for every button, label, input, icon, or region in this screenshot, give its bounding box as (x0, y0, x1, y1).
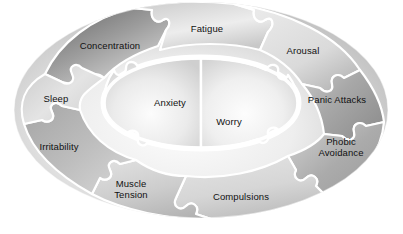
anxiety-puzzle-diagram: Concentration Fatigue Arousal Panic Atta… (0, 0, 403, 234)
puzzle-svg (0, 0, 403, 234)
